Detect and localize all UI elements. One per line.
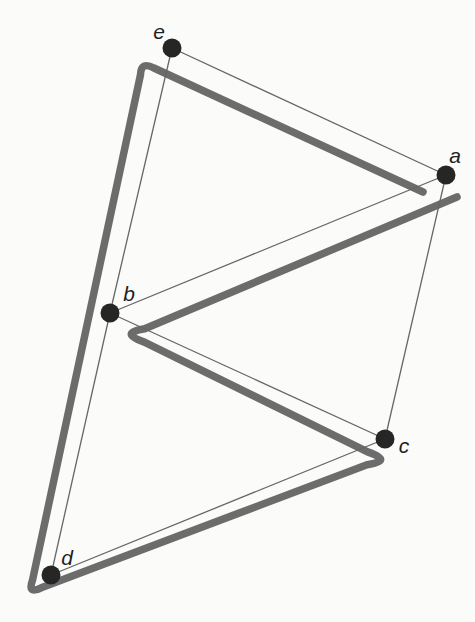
node-label-d: d	[61, 546, 74, 569]
scanned-figure-page: abcde	[0, 0, 475, 622]
node-dot-d	[42, 566, 61, 585]
node-label-a: a	[449, 144, 461, 167]
figure-svg: abcde	[0, 0, 475, 622]
node-dot-a	[437, 166, 456, 185]
node-dot-e	[163, 39, 182, 58]
node-dot-c	[376, 430, 395, 449]
figure-background	[0, 0, 475, 622]
node-label-c: c	[399, 434, 410, 457]
node-dot-b	[101, 304, 120, 323]
node-label-e: e	[153, 20, 165, 43]
node-label-b: b	[123, 282, 135, 305]
